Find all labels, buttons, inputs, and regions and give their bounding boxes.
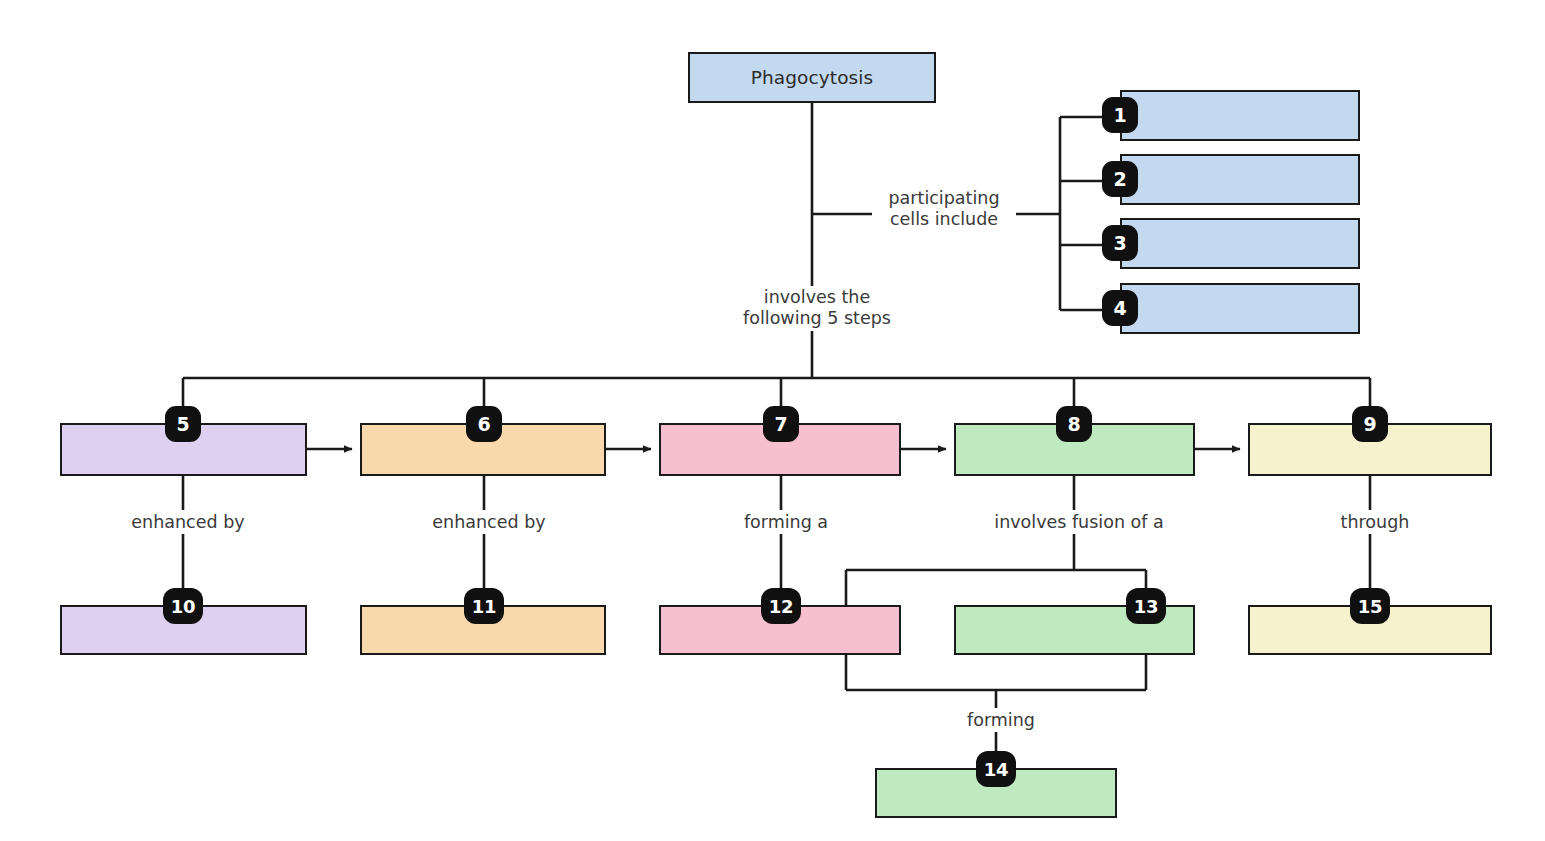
- badge-13: 13: [1126, 588, 1166, 624]
- badge-3: 3: [1102, 225, 1138, 261]
- node-phagocytosis-label: Phagocytosis: [751, 67, 874, 88]
- link-label-forming-14: forming: [941, 709, 1061, 732]
- badge-11: 11: [464, 588, 504, 624]
- badge-5: 5: [165, 406, 201, 442]
- node-box-4[interactable]: [1120, 283, 1360, 334]
- badge-10: 10: [163, 588, 203, 624]
- node-box-2[interactable]: [1120, 154, 1360, 205]
- badge-15: 15: [1350, 588, 1390, 624]
- badge-4: 4: [1102, 290, 1138, 326]
- link-label-through-9: through: [1320, 511, 1430, 534]
- link-label-participating-cells-include: participating cells include: [872, 187, 1016, 232]
- badge-8: 8: [1056, 406, 1092, 442]
- badge-7: 7: [763, 406, 799, 442]
- node-box-1[interactable]: [1120, 90, 1360, 141]
- badge-1: 1: [1102, 97, 1138, 133]
- link-label-involves-fusion-of-a-8: involves fusion of a: [974, 511, 1184, 534]
- badge-2: 2: [1102, 161, 1138, 197]
- link-label-involves-five-steps: involves the following 5 steps: [731, 286, 903, 331]
- link-label-enhanced-by-6: enhanced by: [419, 511, 559, 534]
- badge-9: 9: [1352, 406, 1388, 442]
- badge-12: 12: [761, 588, 801, 624]
- badge-14: 14: [976, 751, 1016, 787]
- concept-map-canvas: Phagocytosis participating cells include…: [0, 0, 1545, 841]
- badge-6: 6: [466, 406, 502, 442]
- node-box-3[interactable]: [1120, 218, 1360, 269]
- node-phagocytosis[interactable]: Phagocytosis: [688, 52, 936, 103]
- link-label-forming-a-7: forming a: [726, 511, 846, 534]
- link-label-enhanced-by-5: enhanced by: [118, 511, 258, 534]
